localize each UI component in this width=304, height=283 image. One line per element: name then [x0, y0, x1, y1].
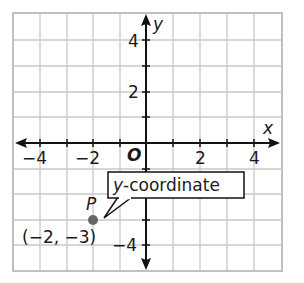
x-tick-label: 4 — [249, 148, 260, 168]
y-tick-label: −4 — [112, 235, 137, 255]
x-tick-label: −4 — [22, 148, 47, 168]
x-tick-label: −2 — [75, 148, 100, 168]
y-tick-label: 2 — [128, 82, 139, 102]
callout: y-coordinate — [104, 172, 244, 218]
point-p-coords: (−2, −3) — [22, 227, 96, 247]
point-p-label: P — [86, 194, 97, 214]
point-p — [88, 215, 98, 225]
coordinate-plane: x y O −4 −2 2 4 4 2 −4 y-coordinate P (−… — [0, 0, 304, 283]
origin-label: O — [127, 145, 141, 165]
x-axis-label: x — [262, 118, 274, 138]
y-tick-label: 4 — [128, 31, 139, 51]
y-axis-label: y — [152, 14, 164, 34]
x-axis — [22, 139, 274, 147]
x-tick-label: 2 — [195, 148, 206, 168]
callout-text: y-coordinate — [112, 175, 220, 195]
